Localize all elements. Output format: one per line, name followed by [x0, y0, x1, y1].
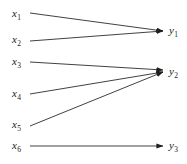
node-subscript: 1 [174, 30, 178, 39]
source-node-x5: x5 [12, 119, 21, 130]
edge-x2-to-y1 [30, 31, 163, 41]
source-node-x2: x2 [12, 34, 21, 45]
node-subscript: 3 [174, 145, 178, 154]
target-node-y3: y3 [169, 140, 178, 151]
node-subscript: 6 [17, 145, 21, 154]
node-subscript: 5 [17, 124, 21, 133]
edge-x4-to-y2 [30, 72, 163, 94]
source-node-x1: x1 [12, 8, 21, 19]
source-node-x3: x3 [12, 56, 21, 67]
edge-layer [30, 13, 163, 146]
edge-x5-to-y2 [30, 72, 163, 126]
node-subscript: 2 [17, 39, 21, 48]
node-subscript: 4 [17, 93, 21, 102]
node-subscript: 3 [17, 61, 21, 70]
edge-x1-to-y1 [30, 13, 163, 31]
target-node-y1: y1 [169, 25, 178, 36]
edge-x3-to-y2 [30, 62, 163, 70]
mapping-edges-canvas [0, 0, 187, 164]
target-node-y2: y2 [169, 66, 178, 77]
source-node-x6: x6 [12, 140, 21, 151]
node-subscript: 2 [174, 71, 178, 80]
mapping-diagram: x1 x2 x3 x4 x5 x6 y1 y2 y3 [0, 0, 187, 164]
node-subscript: 1 [17, 13, 21, 22]
source-node-x4: x4 [12, 88, 21, 99]
